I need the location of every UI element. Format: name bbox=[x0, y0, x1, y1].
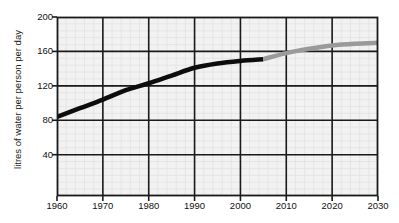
y-axis-tick-label: 160 bbox=[23, 46, 53, 55]
water-consumption-line-chart: litres of water per person per day 20016… bbox=[0, 0, 399, 223]
y-axis-tick-label: 120 bbox=[23, 81, 53, 90]
y-axis-title: litres of water per person per day bbox=[12, 4, 23, 196]
x-axis-tick-label: 1990 bbox=[175, 200, 215, 211]
y-axis-tick-label: 200 bbox=[23, 12, 53, 21]
plot-grid-and-series bbox=[57, 17, 378, 196]
x-axis-tick-label: 2030 bbox=[358, 200, 398, 211]
x-axis-tick-label: 1980 bbox=[129, 200, 169, 211]
y-axis-tick-label: 80 bbox=[23, 115, 53, 124]
data-series-line-actual bbox=[57, 59, 263, 117]
x-axis-tick-label: 2000 bbox=[220, 200, 260, 211]
x-axis-tick-label: 2010 bbox=[266, 200, 306, 211]
plot-area bbox=[57, 17, 378, 196]
y-axis-tick-label: 40 bbox=[23, 150, 53, 159]
x-axis-tick-labels: 19601970198019902000201020202030 bbox=[0, 200, 399, 220]
x-axis-tick-label: 2020 bbox=[312, 200, 352, 211]
x-axis-tick-label: 1970 bbox=[83, 200, 123, 211]
x-axis-tick-label: 1960 bbox=[37, 200, 77, 211]
y-axis-tick-labels: 2001601208040 bbox=[22, 0, 53, 223]
